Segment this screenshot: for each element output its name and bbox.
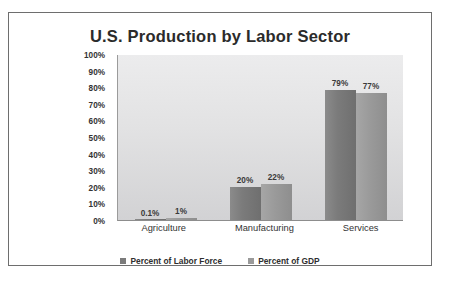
bar[interactable] (325, 90, 356, 220)
y-axis-tick: 100% (84, 51, 105, 60)
chart-title: U.S. Production by Labor Sector (9, 27, 431, 46)
bar[interactable] (166, 218, 197, 220)
chart-legend: Percent of Labor ForcePercent of GDP (9, 256, 431, 266)
x-axis-category-label: Manufacturing (235, 223, 294, 233)
chart-frame: U.S. Production by Labor Sector 100%90%8… (8, 12, 432, 266)
y-axis-tick: 80% (89, 84, 105, 93)
bar-slot: 0.1% (135, 55, 166, 220)
y-axis-tick: 20% (89, 183, 105, 192)
plot-area: 0.1%1%20%22%79%77% (117, 55, 403, 221)
bar-group: 20%22% (230, 55, 292, 220)
bar[interactable] (356, 93, 387, 220)
legend-label: Percent of GDP (258, 256, 319, 266)
y-axis-tick: 10% (89, 200, 105, 209)
bar-value-label: 77% (363, 82, 379, 91)
bar-slot: 77% (356, 55, 387, 220)
bar-value-label: 22% (268, 173, 284, 182)
legend-label: Percent of Labor Force (130, 256, 222, 266)
y-axis-tick: 40% (89, 150, 105, 159)
bar-group: 0.1%1% (135, 55, 197, 220)
y-axis-tick: 50% (89, 134, 105, 143)
bar[interactable] (135, 219, 166, 220)
bar-slot: 1% (166, 55, 197, 220)
bar-value-label: 79% (332, 79, 348, 88)
y-axis-tick: 0% (93, 217, 105, 226)
bar-slot: 20% (230, 55, 261, 220)
y-axis-tick: 70% (89, 100, 105, 109)
bar-value-label: 1% (175, 207, 187, 216)
bar-group: 79%77% (325, 55, 387, 220)
legend-item[interactable]: Percent of Labor Force (120, 256, 222, 266)
legend-swatch-icon (120, 258, 126, 264)
legend-item[interactable]: Percent of GDP (248, 256, 319, 266)
bar-slot: 22% (261, 55, 292, 220)
y-axis: 100%90%80%70%60%50%40%30%20%10%0% (71, 55, 109, 221)
bar-slot: 79% (325, 55, 356, 220)
legend-swatch-icon (248, 258, 254, 264)
x-axis-category-label: Services (343, 223, 379, 233)
y-axis-tick: 30% (89, 167, 105, 176)
bar-value-label: 20% (237, 176, 253, 185)
x-axis-category-label: Agriculture (141, 223, 185, 233)
bar[interactable] (230, 187, 261, 220)
x-axis-labels: AgricultureManufacturingServices (117, 223, 403, 233)
bar-value-label: 0.1% (141, 209, 160, 218)
bars-layer: 0.1%1%20%22%79%77% (118, 55, 403, 220)
y-axis-tick: 60% (89, 117, 105, 126)
bar[interactable] (261, 184, 292, 220)
plot-wrapper: 100%90%80%70%60%50%40%30%20%10%0% 0.1%1%… (71, 55, 403, 221)
y-axis-tick: 90% (89, 67, 105, 76)
